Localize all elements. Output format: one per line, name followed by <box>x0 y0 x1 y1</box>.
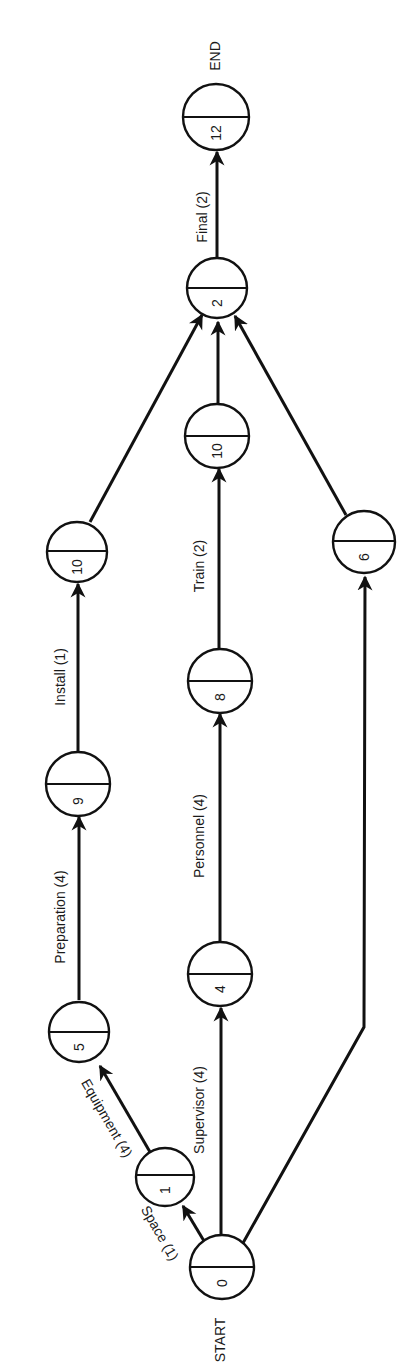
node-value: 2 <box>209 299 225 307</box>
edge-start-to-6 <box>243 577 365 1243</box>
activity-label-preparation: Preparation (4) <box>52 870 68 963</box>
edge-6-to-2 <box>235 316 346 515</box>
end-label: END <box>207 41 223 71</box>
node-9: 9 <box>46 752 110 816</box>
node-value: 0 <box>214 1279 230 1287</box>
edge-10a-to-2 <box>90 315 202 522</box>
node-value: 6 <box>356 553 372 561</box>
node-2: 2 <box>187 258 247 318</box>
start-label: START <box>212 1317 228 1362</box>
activity-label-personnel: Personnel (4) <box>191 794 207 878</box>
node-value: 4 <box>212 985 228 993</box>
node-4: 4 <box>188 942 252 1006</box>
node-8: 8 <box>188 649 252 713</box>
node-value: 1 <box>157 1186 173 1194</box>
node-6: 6 <box>333 511 395 573</box>
activity-label-space: Space (1) <box>138 1203 182 1264</box>
node-end: 12 <box>183 84 249 150</box>
node-value: 10 <box>209 443 225 459</box>
node-value: 12 <box>208 125 224 141</box>
node-5: 5 <box>49 1002 109 1062</box>
activity-label-supervisor: Supervisor (4) <box>191 1066 207 1154</box>
node-10-middle-path: 10 <box>185 404 249 468</box>
node-1: 1 <box>136 1148 194 1206</box>
network-diagram: 0 1 5 9 10 4 8 10 6 2 12 START END <box>0 0 417 1371</box>
edge-space <box>183 1206 204 1241</box>
activity-label-final: Final (2) <box>194 191 210 242</box>
node-start: 0 <box>190 1235 254 1299</box>
node-10-top-path: 10 <box>47 522 107 582</box>
node-value: 10 <box>69 559 85 575</box>
activity-label-train: Train (2) <box>191 540 207 592</box>
activity-label-equipment: Equipment (4) <box>78 1076 136 1160</box>
node-value: 9 <box>70 797 86 805</box>
node-value: 8 <box>212 693 228 701</box>
node-value: 5 <box>71 1043 87 1051</box>
activity-label-install: Install (1) <box>52 648 68 706</box>
